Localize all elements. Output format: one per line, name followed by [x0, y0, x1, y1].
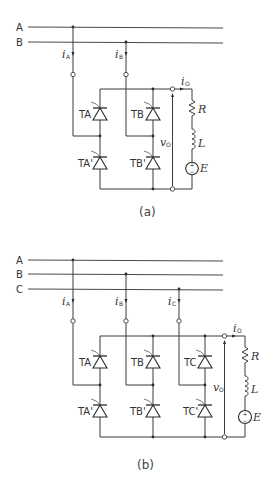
inductor-icon — [245, 376, 248, 396]
line-a-label: A — [16, 255, 23, 266]
terminal-a — [71, 72, 75, 76]
thyristor-ta-icon — [91, 350, 107, 368]
thyristor-ta-icon — [91, 102, 107, 120]
source-e-label: E — [252, 411, 261, 424]
line-a-label: A — [16, 22, 23, 33]
terminal-b — [124, 72, 128, 76]
thyristor-tb-prime-icon — [144, 399, 160, 417]
thyristor-ta-label: TA — [78, 109, 91, 120]
line-c-label: C — [16, 284, 23, 295]
thyristor-tb-prime-label: TB' — [129, 406, 146, 417]
current-arrow-icon — [178, 299, 181, 303]
thyristor-ta-prime-label: TA' — [77, 406, 93, 417]
current-arrow-icon — [72, 299, 75, 303]
output-terminal-neg — [170, 187, 174, 191]
thyristor-tb-icon — [144, 102, 160, 120]
resistor-label: R — [250, 350, 259, 363]
voltage-source-icon: + − — [186, 161, 199, 175]
thyristor-ta-prime-label: TA' — [77, 158, 93, 169]
current-ia-label: i — [62, 295, 66, 308]
figure-a: A B i A i B TA — [16, 22, 223, 219]
svg-text:−: − — [243, 417, 248, 424]
line-b-label: B — [16, 269, 23, 280]
resistor-label: R — [197, 103, 206, 116]
svg-text:C: C — [172, 300, 176, 307]
current-ib-label: i — [115, 295, 119, 308]
line-a — [28, 260, 223, 261]
thyristor-ta-prime-icon — [91, 399, 107, 417]
voltage-arrow-icon — [223, 340, 226, 344]
terminal-b — [124, 319, 128, 323]
current-ia-label: i — [62, 48, 66, 61]
terminal-a — [71, 319, 75, 323]
voltage-arrow-icon — [171, 93, 174, 97]
thyristor-tb-label: TB — [130, 109, 144, 120]
terminal-c — [177, 319, 181, 323]
current-ib-label: i — [115, 48, 119, 61]
output-terminal-neg — [222, 435, 226, 439]
svg-text:B: B — [119, 53, 123, 60]
inductor-icon — [192, 129, 195, 149]
svg-text:O: O — [166, 141, 171, 148]
svg-text:+: + — [190, 161, 195, 168]
line-a — [28, 27, 223, 28]
output-terminal-pos — [170, 87, 174, 91]
svg-text:O: O — [219, 386, 224, 393]
thyristor-tc-label: TC — [183, 357, 197, 368]
figure-b: A B C i A i B i C — [16, 255, 261, 472]
svg-text:−: − — [190, 168, 195, 175]
svg-text:A: A — [66, 300, 71, 307]
svg-text:B: B — [119, 300, 123, 307]
current-io-label: i — [233, 322, 237, 335]
output-terminal-pos — [222, 334, 226, 338]
current-io-label: i — [181, 75, 185, 88]
thyristor-tb-prime-icon — [144, 151, 160, 169]
svg-text:+: + — [243, 410, 248, 417]
resistor-icon — [242, 347, 248, 363]
source-e-label: E — [199, 162, 208, 175]
current-arrow-icon — [72, 52, 75, 56]
svg-text:O: O — [185, 80, 190, 87]
svg-text:O: O — [237, 327, 242, 334]
current-arrow-icon — [125, 299, 128, 303]
circuit-diagram: A B i A i B TA — [0, 0, 274, 488]
voltage-source-icon: + − — [239, 410, 252, 424]
thyristor-tb-icon — [144, 350, 160, 368]
inductor-label: L — [250, 383, 258, 396]
thyristor-tc-prime-label: TC' — [182, 406, 198, 417]
caption-a: (a) — [139, 205, 156, 219]
caption-b: (b) — [137, 458, 154, 472]
line-b-label: B — [16, 37, 23, 48]
thyristor-tc-icon — [196, 350, 212, 368]
thyristor-tb-prime-label: TB' — [129, 158, 146, 169]
thyristor-ta-prime-icon — [91, 151, 107, 169]
current-ic-label: i — [168, 295, 172, 308]
thyristor-tc-prime-icon — [196, 399, 212, 417]
current-arrow-icon — [125, 52, 128, 56]
inductor-label: L — [197, 137, 205, 150]
svg-text:A: A — [66, 53, 71, 60]
thyristor-ta-label: TA — [78, 357, 91, 368]
resistor-icon — [189, 100, 195, 116]
thyristor-tb-label: TB — [130, 357, 144, 368]
